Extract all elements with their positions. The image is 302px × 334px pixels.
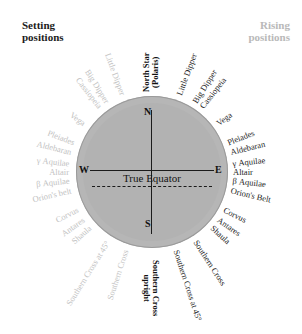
- southern-cross-upright-label: Southern Cross upright: [142, 260, 160, 316]
- star-label-ring: Little DipperBig DipperCassiopeiaVegaPle…: [0, 0, 302, 334]
- north-star-polaris-label: North Star (Polaris): [142, 53, 160, 92]
- rising-label-14: Southern Cross: [105, 248, 131, 301]
- setting-label-13: Southern Cross: [191, 238, 228, 287]
- setting-label-9: Orion's Belt: [230, 186, 272, 205]
- rising-label-3: Vega: [68, 110, 88, 128]
- star-compass-diagram: Setting positions Rising positions True …: [0, 0, 302, 334]
- setting-label-14: Southern Cross at 45°: [172, 248, 205, 322]
- rising-label-0: Little Dipper: [103, 52, 127, 97]
- setting-label-3: Vega: [214, 110, 234, 128]
